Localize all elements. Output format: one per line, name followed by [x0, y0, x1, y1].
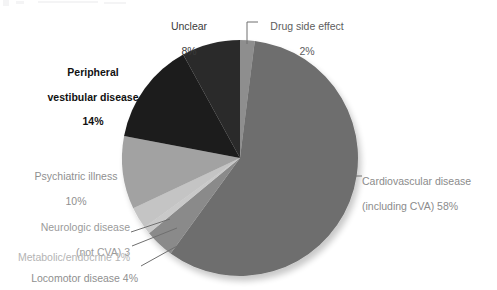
- slice-label-locomotor-disease: Locomotor disease 4%: [10, 260, 138, 290]
- slice-label-cardiovascular-disease: Cardiovascular disease (including CVA) 5…: [362, 163, 497, 224]
- pie-chart: Unclear 8% Drug side effect 2% Periphera…: [0, 0, 497, 290]
- slice-label-drug-side-effect-name: Drug side effect: [253, 20, 361, 32]
- slice-label-peripheral-value: 14%: [30, 115, 156, 127]
- slice-label-cardio-line1: Cardiovascular disease: [362, 175, 497, 187]
- slice-label-cardio-line2: (including CVA) 58%: [362, 200, 497, 212]
- slice-label-unclear-name: Unclear: [146, 20, 232, 32]
- slice-label-locomotor-text: Locomotor disease 4%: [10, 272, 138, 284]
- pie-slice-group: [122, 40, 358, 276]
- slice-label-peripheral-vestibular-disease: Peripheral vestibular disease 14%: [30, 54, 156, 139]
- slice-label-unclear-value: 8%: [146, 45, 232, 57]
- slice-label-unclear: Unclear 8%: [146, 8, 232, 69]
- slice-label-psychiatric-name: Psychiatric illness: [12, 170, 140, 182]
- slice-label-drug-side-effect: Drug side effect 2%: [253, 8, 361, 69]
- slice-label-drug-side-effect-value: 2%: [253, 45, 361, 57]
- slice-label-peripheral-line1: Peripheral: [30, 66, 156, 78]
- slice-label-neurologic-line1: Neurologic disease: [8, 221, 130, 233]
- slice-label-peripheral-line2: vestibular disease: [30, 91, 156, 103]
- slice-label-psychiatric-value: 10%: [12, 195, 140, 207]
